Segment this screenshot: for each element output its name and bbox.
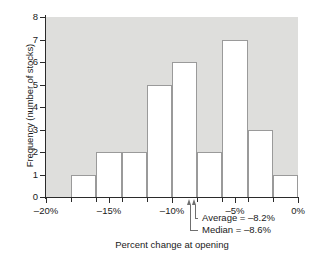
x-tick-mark-minor bbox=[71, 198, 72, 202]
average-annotation-label: Average = –8.2% bbox=[202, 213, 275, 223]
y-tick-mark bbox=[40, 40, 45, 41]
x-tick-label: –10% bbox=[152, 206, 192, 216]
histogram-bar bbox=[222, 40, 247, 198]
y-tick-mark bbox=[40, 17, 45, 18]
y-tick-mark bbox=[40, 197, 45, 198]
x-axis-title: Percent change at opening bbox=[45, 239, 299, 250]
x-tick-mark-minor bbox=[197, 198, 198, 202]
x-tick-label: 0% bbox=[278, 206, 318, 216]
x-tick-mark bbox=[109, 198, 110, 203]
median-leader-vertical bbox=[190, 205, 191, 230]
histogram-bar bbox=[71, 175, 96, 198]
y-tick-label: 1 bbox=[22, 170, 38, 180]
x-tick-mark bbox=[172, 198, 173, 203]
x-tick-mark-minor bbox=[222, 198, 223, 202]
median-leader-horizontal bbox=[190, 230, 198, 231]
y-tick-label: 8 bbox=[22, 12, 38, 22]
histogram-bar bbox=[122, 152, 147, 197]
x-tick-label: –15% bbox=[89, 206, 129, 216]
x-tick-mark-minor bbox=[122, 198, 123, 202]
x-tick-mark bbox=[46, 198, 47, 203]
y-tick-label: 2 bbox=[22, 147, 38, 157]
x-tick-mark-minor bbox=[273, 198, 274, 202]
y-axis-line bbox=[45, 15, 46, 199]
y-tick-label: 7 bbox=[22, 35, 38, 45]
y-tick-mark bbox=[40, 85, 45, 86]
y-tick-label: 0 bbox=[22, 192, 38, 202]
x-tick-label: –20% bbox=[26, 206, 66, 216]
histogram-bar bbox=[172, 62, 197, 197]
histogram-bar bbox=[248, 130, 273, 198]
histogram-bar bbox=[273, 175, 298, 198]
histogram-bar bbox=[197, 152, 222, 197]
y-tick-label: 3 bbox=[22, 125, 38, 135]
x-tick-mark bbox=[298, 198, 299, 203]
y-tick-label: 4 bbox=[22, 102, 38, 112]
median-annotation-label: Median = –8.6% bbox=[202, 225, 271, 235]
x-tick-mark bbox=[235, 198, 236, 203]
y-tick-mark bbox=[40, 175, 45, 176]
x-tick-mark-minor bbox=[147, 198, 148, 202]
y-tick-mark bbox=[40, 152, 45, 153]
x-tick-mark-minor bbox=[248, 198, 249, 202]
histogram-bar bbox=[147, 85, 172, 198]
y-tick-mark bbox=[40, 62, 45, 63]
y-tick-label: 6 bbox=[22, 57, 38, 67]
y-tick-mark bbox=[40, 107, 45, 108]
x-tick-mark-minor bbox=[96, 198, 97, 202]
histogram-figure: Frequency (number of stocks) 012345678 –… bbox=[0, 0, 331, 257]
y-tick-mark bbox=[40, 130, 45, 131]
average-leader-vertical bbox=[195, 205, 196, 218]
y-tick-label: 5 bbox=[22, 80, 38, 90]
average-leader-horizontal bbox=[195, 218, 198, 219]
histogram-bar bbox=[96, 152, 121, 197]
